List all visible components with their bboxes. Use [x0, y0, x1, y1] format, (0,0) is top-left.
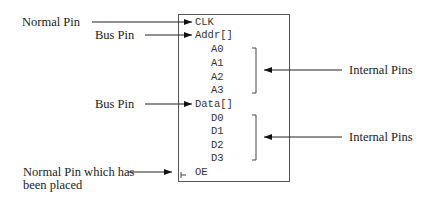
pin-oe: OE: [195, 166, 208, 178]
pin-clk: CLK: [195, 16, 214, 28]
pin-d2: D2: [211, 139, 224, 151]
pin-a0: A0: [211, 43, 224, 55]
bracket-data: [252, 115, 256, 160]
pin-data-bus: Data[]: [195, 98, 233, 110]
pin-d1: D1: [211, 125, 224, 137]
pin-d3: D3: [211, 152, 224, 164]
pin-addr-bus: Addr[]: [195, 29, 233, 41]
label-bus-pin-data: Bus Pin: [95, 98, 134, 111]
label-normal-pin: Normal Pin: [22, 16, 80, 29]
label-internal-pins-data: Internal Pins: [349, 131, 413, 144]
label-bus-pin-addr: Bus Pin: [95, 29, 134, 42]
label-internal-pins-addr: Internal Pins: [349, 64, 413, 77]
bracket-addr: [252, 48, 256, 93]
pin-a2: A2: [211, 71, 224, 83]
pin-a1: A1: [211, 57, 224, 69]
pin-a3: A3: [211, 84, 224, 96]
pin-d0: D0: [211, 112, 224, 124]
label-placed-pin-line2: been placed: [23, 179, 82, 192]
